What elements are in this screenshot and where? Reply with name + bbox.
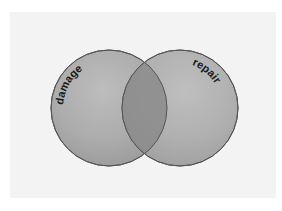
- venn-diagram: damage repair: [0, 0, 282, 211]
